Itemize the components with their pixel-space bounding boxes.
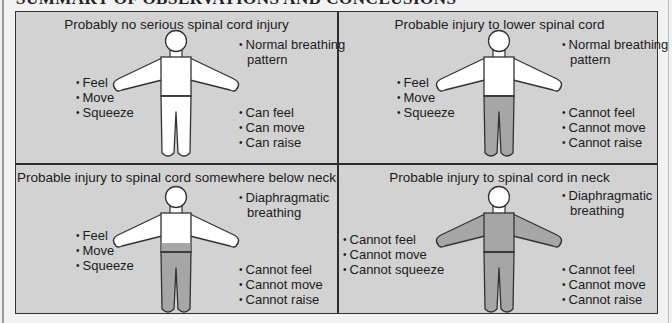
breathing-item-cont: pattern: [562, 53, 668, 68]
lower-limb-item: Can raise: [239, 136, 305, 151]
upper-limb-observations: Cannot feel Cannot move Cannot squeeze: [343, 233, 444, 278]
lower-limb-item: Cannot raise: [562, 136, 646, 151]
lower-limb-item: Cannot feel: [562, 106, 646, 121]
lower-torso-affected: [162, 243, 191, 252]
legs: [484, 252, 514, 312]
upper-limb-observations: Feel Move Squeeze: [76, 76, 134, 121]
upper-limb-item: Cannot squeeze: [343, 263, 444, 278]
head: [166, 31, 187, 52]
panel-neck-injury: Probable injury to spinal cord in neck D…: [339, 165, 660, 313]
breathing-observation: Normal breathing pattern: [562, 38, 668, 68]
breathing-item-cont: breathing: [562, 204, 652, 219]
torso: [161, 57, 191, 96]
breathing-item: Normal breathing: [562, 38, 668, 53]
lower-limb-item: Cannot raise: [562, 293, 646, 308]
breathing-item-cont: pattern: [239, 53, 345, 68]
legs: [161, 96, 191, 156]
summary-grid: Probably no serious spinal cord injury N…: [15, 11, 658, 314]
breathing-item: Diaphragmatic: [562, 189, 652, 204]
upper-limb-item: Move: [397, 91, 455, 106]
upper-limb-item: Feel: [76, 76, 134, 91]
head: [166, 187, 187, 208]
upper-limb-item: Feel: [397, 76, 455, 91]
right-arm: [513, 58, 562, 91]
breathing-item-cont: breathing: [239, 206, 329, 221]
figure-group: [436, 187, 561, 313]
page-edge-line: [2, 0, 4, 323]
upper-limb-item: Cannot move: [343, 248, 444, 263]
right-arm: [190, 214, 239, 247]
panel-no-serious-injury: Probably no serious spinal cord injury N…: [16, 12, 337, 163]
breathing-item: Normal breathing: [239, 38, 345, 53]
right-arm: [513, 214, 562, 247]
breathing-observation: Normal breathing pattern: [239, 38, 345, 68]
lower-limb-item: Can move: [239, 121, 305, 136]
torso: [484, 57, 514, 96]
lower-limb-observations: Cannot feel Cannot move Cannot raise: [562, 106, 646, 151]
breathing-observation: Diaphragmatic breathing: [562, 189, 652, 219]
upper-limb-observations: Feel Move Squeeze: [397, 76, 455, 121]
figure-group: [436, 31, 561, 157]
lower-limb-item: Cannot feel: [562, 263, 646, 278]
upper-limb-item: Cannot feel: [343, 233, 444, 248]
head: [489, 31, 510, 52]
legs: [161, 252, 191, 312]
panel-below-neck-injury: Probable injury to spinal cord somewhere…: [16, 165, 337, 313]
lower-limb-item: Can feel: [239, 106, 305, 121]
horizontal-divider: [16, 163, 657, 165]
head: [489, 187, 510, 208]
upper-limb-item: Squeeze: [397, 106, 455, 121]
right-arm: [190, 58, 239, 91]
lower-limb-item: Cannot move: [562, 278, 646, 293]
lower-limb-item: Cannot raise: [239, 293, 323, 308]
lower-limb-item: Cannot move: [239, 278, 323, 293]
lower-limb-observations: Cannot feel Cannot move Cannot raise: [239, 263, 323, 308]
lower-limb-item: Cannot feel: [239, 263, 323, 278]
legs: [484, 96, 514, 156]
upper-limb-item: Feel: [76, 229, 134, 244]
panel-lower-spinal-cord-injury: Probable injury to lower spinal cord Nor…: [339, 12, 660, 163]
lower-limb-observations: Can feel Can move Can raise: [239, 106, 305, 151]
upper-limb-item: Move: [76, 91, 134, 106]
lower-limb-item: Cannot move: [562, 121, 646, 136]
upper-limb-observations: Feel Move Squeeze: [76, 229, 134, 274]
upper-limb-item: Squeeze: [76, 259, 134, 274]
lower-limb-observations: Cannot feel Cannot move Cannot raise: [562, 263, 646, 308]
breathing-observation: Diaphragmatic breathing: [239, 191, 329, 221]
upper-limb-item: Squeeze: [76, 106, 134, 121]
breathing-item: Diaphragmatic: [239, 191, 329, 206]
page-title: SUMMARY OF OBSERVATIONS AND CONCLUSIONS: [16, 0, 457, 9]
upper-limb-item: Move: [76, 244, 134, 259]
torso: [484, 213, 514, 252]
